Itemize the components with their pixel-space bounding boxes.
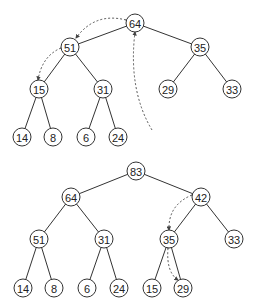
node-label: 29	[162, 84, 174, 96]
heap-node: 24	[109, 128, 127, 146]
node-label: 33	[228, 234, 240, 246]
node-label: 6	[83, 132, 89, 144]
node-label: 6	[84, 283, 90, 295]
heap-node: 83	[127, 162, 145, 180]
node-label: 83	[130, 166, 142, 178]
tree-edge	[135, 23, 200, 47]
heap-node: 35	[160, 230, 178, 248]
heap-node: 51	[30, 230, 48, 248]
heap-node: 14	[14, 279, 32, 297]
heap-node: 8	[45, 279, 63, 297]
heap-node: 33	[223, 80, 241, 98]
heap-node: 6	[77, 128, 95, 146]
node-label: 31	[97, 84, 109, 96]
heap-node: 51	[61, 38, 79, 56]
heap-node: 29	[174, 279, 192, 297]
node-label: 24	[112, 132, 124, 144]
heap-node: 6	[78, 279, 96, 297]
tree-nodes: 6451351531293314862483644251313533148624…	[13, 14, 243, 297]
node-label: 29	[177, 283, 189, 295]
heap-node: 15	[143, 279, 161, 297]
node-label: 8	[51, 283, 57, 295]
heap-node: 33	[225, 230, 243, 248]
node-label: 51	[64, 42, 76, 54]
heap-node: 31	[95, 230, 113, 248]
heap-diagram: 6451351531293314862483644251313533148624…	[0, 0, 254, 308]
node-label: 35	[163, 234, 175, 246]
node-label: 8	[50, 132, 56, 144]
insert-arrow-to-root	[133, 32, 152, 130]
node-label: 33	[226, 84, 238, 96]
heap-node: 24	[110, 279, 128, 297]
tree-edge	[71, 171, 136, 197]
tree-edge	[136, 171, 201, 197]
node-label: 64	[65, 192, 77, 204]
heap-node: 42	[192, 188, 210, 206]
tree-edge	[70, 23, 135, 47]
node-label: 31	[98, 234, 110, 246]
swap-arrow-64-51	[76, 18, 126, 38]
heap-node: 15	[30, 80, 48, 98]
node-label: 15	[146, 283, 158, 295]
node-label: 14	[17, 283, 29, 295]
heap-node: 64	[126, 14, 144, 32]
node-label: 51	[33, 234, 45, 246]
heap-node: 8	[44, 128, 62, 146]
node-label: 14	[16, 132, 28, 144]
heap-node: 64	[62, 188, 80, 206]
heap-node: 14	[13, 128, 31, 146]
node-label: 35	[194, 42, 206, 54]
node-label: 64	[129, 18, 141, 30]
node-label: 15	[33, 84, 45, 96]
tree-edges	[22, 23, 234, 288]
node-label: 24	[113, 283, 125, 295]
heap-node: 35	[191, 38, 209, 56]
node-label: 42	[195, 192, 207, 204]
heap-node: 29	[159, 80, 177, 98]
heap-node: 31	[94, 80, 112, 98]
